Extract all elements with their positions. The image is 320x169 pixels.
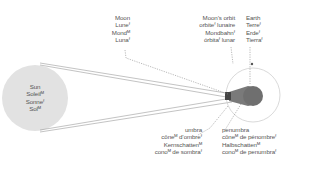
penumbra-label: penumbra côneᴹ de pénombreᶠ Halbschatten… [222,126,294,156]
sun-label: Sun Soleilᴹ Sonneᶠ Solᴹ [20,83,50,113]
moon-orbit-label: Moon’s orbit orbiteᶠ lunaire Mondbahnᶠ ó… [185,14,235,44]
sunlight-rays [40,63,232,132]
earth-label: Earth Terreᶠ Erdeᶠ Tierraᶠ [246,14,286,44]
earth-body [243,86,263,106]
leader-lines [125,47,250,135]
moon-label: Moon Luneᶠ Mondᴹ Lunaᶠ [100,14,130,44]
umbra-label: umbra côneᴹ d’ombreᶠ Kernschattenᴹ conoᴹ… [140,126,202,156]
orbit-marker [251,63,253,65]
